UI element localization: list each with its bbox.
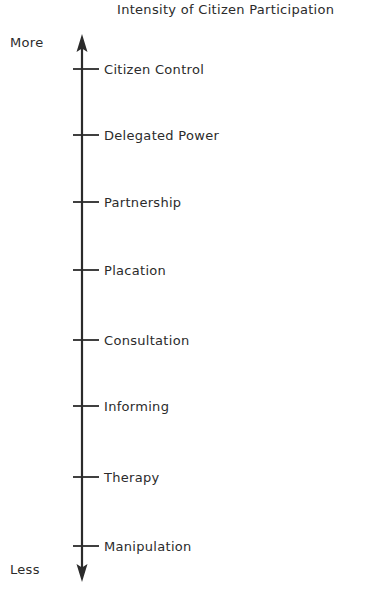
- vertical-axis-with-arrows: [0, 0, 373, 596]
- participation-ladder-figure: Intensity of Citizen Participation More …: [0, 0, 373, 596]
- ladder-rung-label: Partnership: [104, 195, 181, 210]
- ladder-rung-label: Citizen Control: [104, 62, 204, 77]
- ladder-rung-label: Therapy: [104, 470, 160, 485]
- ladder-rung-label: Delegated Power: [104, 128, 219, 143]
- ladder-rung-label: Manipulation: [104, 539, 192, 554]
- ladder-rung-label: Consultation: [104, 333, 189, 348]
- tick-mark-group: [73, 69, 99, 546]
- ladder-rung-label: Placation: [104, 263, 166, 278]
- ladder-rung-label: Informing: [104, 399, 169, 414]
